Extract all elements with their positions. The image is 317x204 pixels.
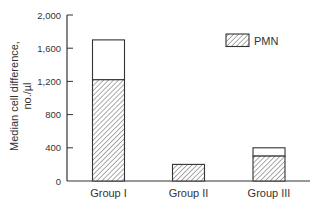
x-category-label: Group II: [169, 187, 209, 199]
y-tick-label: 400: [45, 142, 61, 153]
y-axis-title-line-2: no./µl: [21, 82, 33, 109]
y-tick-label: 2,000: [37, 10, 61, 21]
y-axis-title-line-1: Median cell difference,: [8, 41, 20, 151]
y-tick-label: 1,600: [37, 43, 61, 54]
x-category-label: Group I: [90, 187, 127, 199]
bars: [93, 40, 286, 181]
y-axis: 04008001,2001,6002,000: [37, 10, 73, 187]
bar-segment-other: [93, 40, 125, 80]
bar-segment-other: [253, 148, 285, 156]
y-axis-title: Median cell difference,no./µl: [8, 41, 33, 151]
bar-group: [173, 164, 205, 181]
legend: PMN: [226, 34, 279, 47]
y-tick-label: 800: [45, 109, 61, 120]
y-tick-label: 1,200: [37, 76, 61, 87]
bar-group: [253, 148, 285, 181]
bar-segment-pmn: [173, 164, 205, 181]
y-tick-label: 0: [56, 176, 61, 187]
bar-segment-pmn: [253, 156, 285, 181]
chart: Median cell difference,no./µl 04008001,2…: [0, 0, 317, 204]
legend-swatch-pmn: [226, 34, 249, 47]
bar-segment-pmn: [93, 80, 125, 181]
legend-label-pmn: PMN: [254, 35, 279, 47]
bar-group: [93, 40, 125, 181]
x-category-label: Group III: [248, 187, 291, 199]
x-axis: Group IGroup IIGroup III: [67, 181, 310, 199]
